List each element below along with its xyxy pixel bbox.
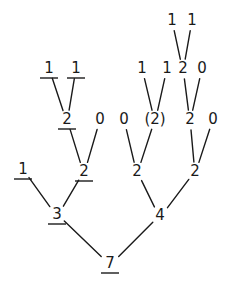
node-label: 0 xyxy=(208,110,218,128)
node-label: 1 xyxy=(71,59,81,77)
tree-edge xyxy=(52,78,63,110)
node-label: 0 xyxy=(95,110,105,128)
tree-node: 4 xyxy=(155,206,165,224)
tree-edge xyxy=(119,222,153,256)
node-label: 2 xyxy=(132,162,142,180)
tree-node: 7 xyxy=(101,254,119,273)
tree-edge xyxy=(191,130,194,162)
tree-node: 0 xyxy=(197,59,207,77)
node-label: 7 xyxy=(105,254,115,272)
tree-node: 1 xyxy=(167,11,177,29)
node-label: 0 xyxy=(119,110,129,128)
tree-edge xyxy=(184,79,188,110)
tree-node: 2 xyxy=(58,110,76,129)
tree-edge xyxy=(193,79,200,111)
node-label: 1 xyxy=(167,11,177,29)
node-label: (2) xyxy=(144,110,165,128)
tree-node: 2 xyxy=(185,110,195,128)
tree-node: 2 xyxy=(178,59,188,77)
node-label: 4 xyxy=(155,206,165,224)
tree-node: (2) xyxy=(144,110,165,128)
tree-edge xyxy=(29,178,50,207)
tree-node: 1 xyxy=(14,160,32,179)
node-label: 2 xyxy=(190,162,200,180)
tree-edge xyxy=(64,221,101,257)
tree-edge xyxy=(88,130,98,163)
tree-node: 1 xyxy=(67,59,85,78)
tree-edge xyxy=(126,130,134,163)
tree-edge xyxy=(63,180,78,206)
tree-edge xyxy=(185,31,190,59)
tree-node: 2 xyxy=(132,162,142,180)
node-label: 1 xyxy=(18,160,28,178)
tree-node: 1 xyxy=(137,59,147,77)
node-label: 2 xyxy=(79,162,89,180)
tree-edge xyxy=(174,31,180,60)
node-label: 2 xyxy=(185,110,195,128)
tree-node: 0 xyxy=(208,110,218,128)
tree-edge xyxy=(70,129,80,162)
tree-node: 1 xyxy=(162,59,172,77)
tree-edge xyxy=(168,179,189,207)
node-label: 0 xyxy=(197,59,207,77)
tree-node: 1 xyxy=(187,11,197,29)
node-label: 2 xyxy=(62,110,72,128)
tree-node: 0 xyxy=(95,110,105,128)
tree-node: 2 xyxy=(190,162,200,180)
tree-node: 2 xyxy=(75,162,93,181)
tree-diagram: 7341222200(2)2011112011 xyxy=(0,0,233,291)
tree-node: 1 xyxy=(40,59,58,78)
tree-edge xyxy=(141,129,152,162)
node-label: 1 xyxy=(137,59,147,77)
tree-edge xyxy=(142,181,155,207)
tree-edge xyxy=(69,79,74,110)
tree-node: 3 xyxy=(48,205,66,224)
tree-node: 0 xyxy=(119,110,129,128)
tree-edge xyxy=(199,129,210,162)
node-label: 2 xyxy=(178,59,188,77)
tree-edge xyxy=(158,79,165,111)
node-label: 1 xyxy=(162,59,172,77)
node-label: 1 xyxy=(44,59,54,77)
node-label: 3 xyxy=(52,205,62,223)
node-label: 1 xyxy=(187,11,197,29)
tree-edge xyxy=(145,79,153,111)
